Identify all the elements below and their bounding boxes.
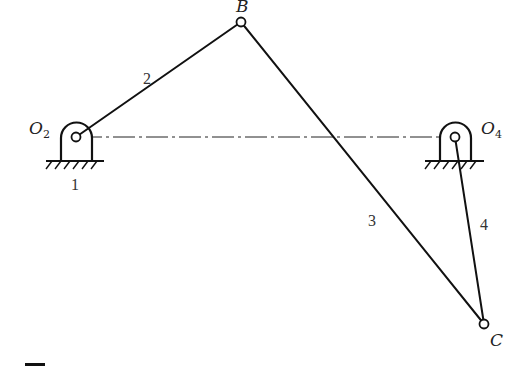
link-2-crank xyxy=(76,22,241,137)
joint-c xyxy=(480,320,489,329)
ground-pivot-o2 xyxy=(46,123,104,170)
label-b: B xyxy=(235,0,249,16)
label-link-1: 1 xyxy=(71,176,79,193)
link-3-coupler xyxy=(241,22,484,324)
label-o4: O4 xyxy=(481,118,502,141)
ground-hatch-o2 xyxy=(46,161,97,169)
label-c: C xyxy=(490,330,503,350)
label-link-3: 3 xyxy=(368,212,376,229)
joint-o2 xyxy=(72,133,81,142)
ground-pivot-o4 xyxy=(425,123,484,170)
four-bar-linkage-diagram: O2 O4 B C 1 2 3 4 xyxy=(0,0,525,366)
label-link-4: 4 xyxy=(480,216,488,233)
joint-b xyxy=(237,18,246,27)
label-o2: O2 xyxy=(29,118,50,141)
label-link-2: 2 xyxy=(143,70,151,87)
ground-hatch-o4 xyxy=(425,161,476,169)
joint-o4 xyxy=(451,133,460,142)
